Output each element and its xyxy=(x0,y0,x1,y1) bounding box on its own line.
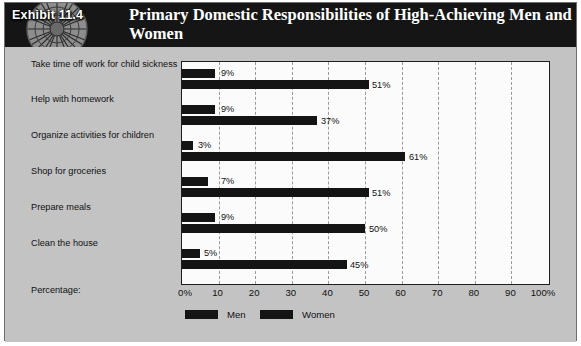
bar-value-women-3: 51% xyxy=(372,189,390,198)
bar-men-1 xyxy=(182,105,215,114)
category-label: Organize activities for children xyxy=(31,130,181,141)
gridline-10 xyxy=(219,62,220,284)
gridline-40 xyxy=(328,62,329,284)
gridline-30 xyxy=(292,62,293,284)
category-label-line: Help with homework xyxy=(31,94,114,104)
category-label-column: Take time off work for child sickness He… xyxy=(5,47,177,342)
tick-label-10: 10 xyxy=(212,287,223,298)
bar-value-women-1: 37% xyxy=(321,117,339,126)
bar-value-women-0: 51% xyxy=(372,81,390,90)
bar-women-5 xyxy=(182,260,347,269)
chart-body: Take time off work for child sickness He… xyxy=(5,47,576,342)
gridline-90 xyxy=(511,62,512,284)
bar-women-3 xyxy=(182,188,369,197)
gridline-60 xyxy=(402,62,403,284)
bar-men-4 xyxy=(182,213,215,222)
legend-item-men: Men xyxy=(185,309,246,320)
bar-men-3 xyxy=(182,177,208,186)
category-label-line: Shop for groceries xyxy=(31,166,106,176)
category-label-line: Clean the house xyxy=(31,238,98,248)
x-axis-tick-labels: 0% 10 20 30 40 50 60 70 80 90 100% xyxy=(181,287,550,301)
category-label: Shop for groceries xyxy=(31,166,181,177)
bar-value-men-2: 3% xyxy=(198,141,211,150)
tick-label-40: 40 xyxy=(322,287,333,298)
bar-value-women-2: 61% xyxy=(409,153,427,162)
legend-label-women: Women xyxy=(302,309,335,320)
tick-label-30: 30 xyxy=(285,287,296,298)
bar-value-men-3: 7% xyxy=(221,177,234,186)
tick-label-50: 50 xyxy=(359,287,370,298)
bar-men-2 xyxy=(182,141,193,150)
bar-value-women-4: 50% xyxy=(369,225,387,234)
category-label-line: Organize activities for children xyxy=(31,130,154,140)
tick-label-80: 80 xyxy=(468,287,479,298)
bar-value-men-5: 5% xyxy=(204,249,217,258)
tick-label-60: 60 xyxy=(395,287,406,298)
gridline-20 xyxy=(255,62,256,284)
legend-label-men: Men xyxy=(227,309,246,320)
category-label-line: Take time off work for child sickness xyxy=(31,59,177,69)
category-label-line: Prepare meals xyxy=(31,202,91,212)
plot-inner: 9% 51% 9% 37% 3% 61% 7% xyxy=(182,62,549,284)
exhibit-number-tag: Exhibit 11.4 xyxy=(12,8,83,22)
bar-men-5 xyxy=(182,249,200,258)
legend-swatch-women-icon xyxy=(260,310,293,319)
tick-label-0: 0% xyxy=(178,287,192,298)
tick-label-70: 70 xyxy=(432,287,443,298)
legend-swatch-men-icon xyxy=(185,310,218,319)
exhibit-header: Exhibit 11.4 Primary Domestic Responsibi… xyxy=(5,3,576,47)
tick-label-90: 90 xyxy=(505,287,516,298)
legend-item-women: Women xyxy=(260,309,335,320)
gridline-80 xyxy=(475,62,476,284)
bar-women-4 xyxy=(182,224,365,233)
bar-women-2 xyxy=(182,152,405,161)
bar-men-0 xyxy=(182,69,215,78)
bar-value-women-5: 45% xyxy=(350,261,368,270)
bar-value-men-4: 9% xyxy=(221,213,234,222)
gridline-50 xyxy=(365,62,366,284)
exhibit-frame: Exhibit 11.4 Primary Domestic Responsibi… xyxy=(4,2,577,341)
axis-caption: Percentage: xyxy=(31,285,81,295)
category-label: Clean the house xyxy=(31,238,181,249)
tick-label-100: 100% xyxy=(531,287,556,298)
gridline-70 xyxy=(438,62,439,284)
bar-value-men-0: 9% xyxy=(221,69,234,78)
plot-area: 9% 51% 9% 37% 3% 61% 7% xyxy=(181,61,550,285)
category-label: Help with homework xyxy=(31,94,181,105)
exhibit-figure: Exhibit 11.4 Primary Domestic Responsibi… xyxy=(0,0,581,346)
tick-label-20: 20 xyxy=(249,287,260,298)
bar-value-men-1: 9% xyxy=(221,105,234,114)
category-label: Prepare meals xyxy=(31,202,181,213)
bar-women-0 xyxy=(182,80,369,89)
category-label: Take time off work for child sickness xyxy=(31,59,181,70)
exhibit-title: Primary Domestic Responsibilities of Hig… xyxy=(129,6,574,43)
bar-women-1 xyxy=(182,116,317,125)
